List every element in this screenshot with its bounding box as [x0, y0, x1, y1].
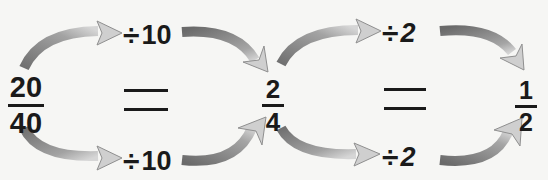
- denominator: 2: [519, 110, 533, 135]
- fraction-simplification-diagram: 20 40 2 4 1 2 ÷ 10 ÷ 10 ÷ 2 ÷ 2: [0, 0, 548, 180]
- divide-icon: ÷: [123, 20, 139, 50]
- divisor: 10: [141, 22, 171, 49]
- arrow-bottom-right-out: [440, 118, 522, 161]
- divisor: 2: [400, 144, 415, 171]
- arrow-bottom-right-in: [281, 128, 380, 166]
- fraction-20-40: 20 40: [8, 73, 44, 138]
- denominator: 4: [266, 109, 280, 135]
- divide-icon: ÷: [382, 18, 398, 48]
- divisor: 10: [141, 148, 171, 175]
- divide-by-10-bottom: ÷ 10: [123, 146, 172, 176]
- numerator: 2: [266, 76, 280, 102]
- fraction-2-4: 2 4: [262, 76, 284, 135]
- divide-by-2-bottom: ÷ 2: [382, 142, 416, 172]
- divide-by-10-top: ÷ 10: [123, 20, 172, 50]
- arrow-bottom-left-out: [182, 117, 266, 161]
- denominator: 40: [10, 109, 42, 138]
- arrow-top-right-in: [281, 19, 381, 64]
- fraction-1-2: 1 2: [515, 78, 537, 135]
- divisor: 2: [400, 20, 415, 47]
- numerator: 20: [10, 73, 42, 102]
- divide-by-2-top: ÷ 2: [382, 18, 416, 48]
- arrow-top-left-in: [24, 21, 122, 68]
- divide-icon: ÷: [123, 146, 139, 176]
- arrow-top-left-out: [182, 32, 268, 72]
- equals-sign: [384, 88, 426, 110]
- numerator: 1: [519, 78, 533, 103]
- divide-icon: ÷: [382, 142, 398, 172]
- equals-sign: [124, 89, 168, 111]
- arrow-top-right-out: [440, 30, 524, 70]
